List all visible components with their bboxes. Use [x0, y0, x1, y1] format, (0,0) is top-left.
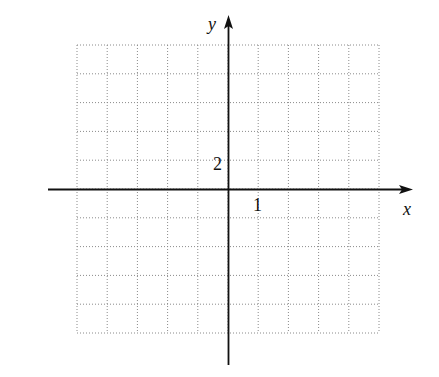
x-axis-label: x [402, 199, 411, 219]
x-tick-label: 1 [253, 195, 262, 215]
axes [48, 15, 413, 365]
y-axis-label: y [206, 14, 216, 34]
y-tick-label: 2 [213, 154, 222, 174]
coordinate-plane: y x 2 1 [0, 0, 439, 377]
